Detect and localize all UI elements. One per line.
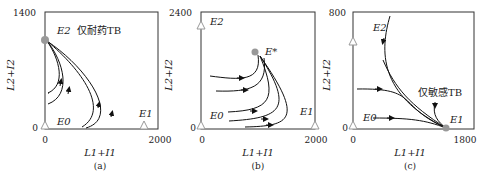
svg-text:L2+I2: L2+I2 [163, 59, 174, 92]
svg-text:L1+I1: L1+I1 [241, 147, 274, 158]
svg-text:0: 0 [350, 135, 356, 145]
phase-portraits: 1400 0 0 2000 E2 仅耐药TB E0 E1 L1+I1 (a) L… [0, 0, 480, 174]
svg-text:0: 0 [342, 123, 348, 133]
svg-text:0: 0 [32, 123, 38, 133]
svg-text:L1+I1: L1+I1 [83, 147, 116, 158]
svg-text:(c): (c) [404, 161, 416, 171]
svg-text:仅耐药TB: 仅耐药TB [77, 24, 121, 36]
svg-text:(a): (a) [94, 161, 106, 171]
svg-text:0: 0 [199, 135, 205, 145]
equilibrium-e2-stable [41, 36, 49, 44]
svg-text:L1+I1: L1+I1 [393, 147, 426, 158]
svg-text:仅敏感TB: 仅敏感TB [418, 86, 462, 98]
svg-text:2000: 2000 [149, 135, 172, 145]
svg-text:E2: E2 [372, 22, 387, 33]
svg-text:E2: E2 [56, 25, 71, 36]
svg-text:E0: E0 [209, 110, 224, 121]
panel-c: 800 0 0 1800 E2 仅敏感TB E0 E1 L1+I1 (c) L2… [321, 8, 477, 171]
panel-a: 1400 0 0 2000 E2 仅耐药TB E0 E1 L1+I1 (a) L… [5, 8, 172, 171]
svg-text:1800: 1800 [454, 135, 477, 145]
svg-text:E1: E1 [449, 114, 464, 125]
svg-text:E0: E0 [56, 116, 71, 127]
svg-text:E0: E0 [362, 112, 377, 123]
equilibrium-estar-stable [252, 49, 259, 56]
svg-text:L2+I2: L2+I2 [5, 59, 16, 92]
panel-b: 2400 0 0 2000 E2 E* E0 E1 L1+I1 (b) L2+I… [163, 8, 328, 171]
svg-text:E1: E1 [299, 106, 314, 117]
svg-text:2000: 2000 [305, 135, 328, 145]
svg-text:E2: E2 [209, 16, 224, 27]
svg-text:E*: E* [264, 46, 277, 57]
svg-text:L2+I2: L2+I2 [321, 59, 332, 92]
svg-text:E1: E1 [138, 108, 153, 119]
svg-text:1400: 1400 [13, 8, 36, 18]
svg-text:0: 0 [42, 135, 48, 145]
equilibrium-e1-stable [443, 125, 450, 132]
svg-text:2400: 2400 [169, 8, 192, 18]
svg-text:(b): (b) [252, 161, 265, 171]
svg-text:0: 0 [190, 123, 196, 133]
svg-text:800: 800 [329, 8, 346, 18]
